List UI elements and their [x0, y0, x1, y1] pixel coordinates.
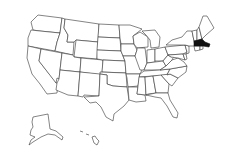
state-ak[interactable] — [29, 114, 63, 145]
alaska — [29, 114, 63, 145]
contiguous-us — [27, 15, 214, 121]
state-ks[interactable] — [102, 60, 126, 73]
state-ne[interactable] — [97, 50, 125, 61]
state-nm[interactable] — [78, 72, 100, 97]
state-in[interactable] — [147, 49, 155, 63]
state-ct[interactable] — [194, 46, 200, 51]
state-pa[interactable] — [165, 45, 187, 55]
state-fl[interactable] — [146, 93, 178, 118]
state-ia[interactable] — [121, 44, 137, 56]
state-hi[interactable] — [80, 131, 99, 145]
state-az[interactable] — [56, 70, 80, 96]
state-nd[interactable] — [98, 24, 120, 38]
state-wy[interactable] — [74, 40, 98, 59]
state-ri[interactable] — [200, 46, 203, 50]
state-ny[interactable] — [166, 31, 195, 46]
state-me[interactable] — [199, 16, 214, 39]
state-sd[interactable] — [97, 37, 121, 51]
hawaii — [80, 131, 99, 145]
state-ma-highlighted[interactable] — [194, 39, 210, 47]
state-mt[interactable] — [64, 19, 99, 42]
us-states-map — [0, 0, 230, 161]
